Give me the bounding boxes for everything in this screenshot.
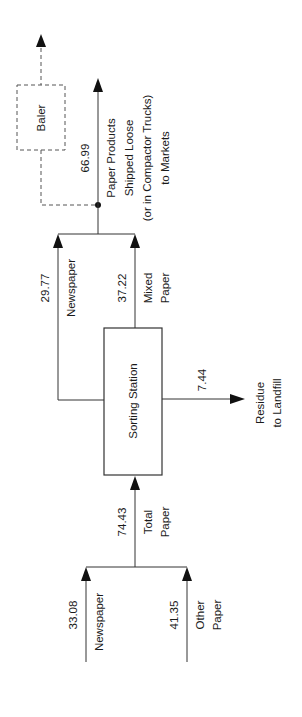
mixed-paper-label-line2: Paper (159, 272, 171, 303)
other-paper-label-line2: Paper (211, 599, 223, 630)
baler-output-arrowhead-icon (36, 34, 46, 47)
total-paper-arrowhead-icon (130, 476, 140, 490)
newspaper-output-label: Newspaper (65, 259, 77, 317)
other-paper-label-line1: Other (194, 600, 206, 629)
sorting-station: Sorting Station (104, 328, 162, 475)
total-paper-label-line1: Total (142, 510, 154, 534)
newspaper-input: 33.08 Newspaper (67, 567, 105, 662)
mixed-paper-output: 37.22 Mixed Paper (116, 234, 171, 328)
paper-products-label-line2: Shipped Loose (123, 120, 135, 197)
mixed-paper-output-value: 37.22 (116, 274, 128, 303)
residue-value: 7.44 (196, 368, 208, 391)
residue-arrowhead-icon (230, 394, 245, 404)
newspaper-output-value: 29.77 (39, 274, 51, 303)
paper-products-arrowhead-icon (93, 78, 103, 92)
total-paper-input: 74.43 Total Paper (116, 476, 171, 567)
other-paper-input: 41.35 Other Paper (168, 567, 223, 662)
total-paper-label-line2: Paper (159, 506, 171, 537)
residue-output: 7.44 Residue to Landfill (162, 368, 283, 427)
newspaper-output: 29.77 Newspaper (39, 234, 104, 400)
sorting-station-label: Sorting Station (127, 363, 139, 438)
other-paper-value: 41.35 (168, 601, 180, 630)
newspaper-input-arrowhead-icon (81, 567, 91, 581)
baler-label: Baler (35, 104, 47, 131)
newspaper-input-value: 33.08 (67, 601, 79, 630)
total-paper-value: 74.43 (116, 508, 128, 537)
mixed-paper-label-line1: Mixed (142, 273, 154, 304)
paper-products-label-line3: (or in Compactor Trucks) (141, 95, 153, 222)
mixed-paper-output-arrowhead-icon (130, 234, 140, 248)
residue-label-line1: Residue (254, 382, 266, 424)
newspaper-input-label: Newspaper (93, 593, 105, 651)
other-paper-arrowhead-icon (182, 567, 192, 581)
residue-label-line2: to Landfill (271, 378, 283, 427)
paper-products-value: 66.99 (79, 144, 91, 173)
paper-products-label-line4: to Markets (159, 131, 171, 185)
paper-sorting-flow-diagram: Baler 66.99 Paper Products Shipped Loose… (0, 0, 302, 717)
paper-products-output: 66.99 Paper Products Shipped Loose (or i… (79, 78, 171, 234)
baler-branch: Baler (17, 34, 101, 208)
newspaper-output-arrowhead-icon (53, 234, 63, 248)
paper-products-label-line1: Paper Products (105, 118, 117, 198)
